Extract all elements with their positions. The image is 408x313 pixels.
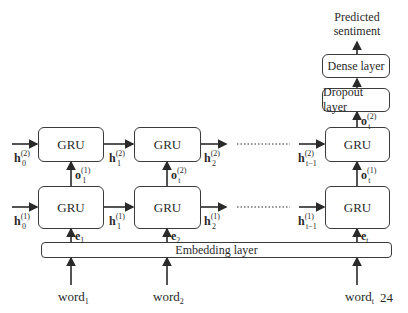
gru-label: GRU (57, 137, 84, 153)
gru-label: GRU (154, 137, 181, 153)
gru-label: GRU (57, 200, 84, 216)
input-word1: word1 (58, 290, 89, 306)
output-o1-1: o(1)1 (75, 167, 86, 185)
gru-layer1-step2: GRU (134, 186, 201, 229)
predicted-sentiment-label: Predicted sentiment (322, 10, 392, 39)
page-number: 24 (380, 290, 393, 306)
gru-layer1-step1: GRU (38, 186, 104, 229)
hidden-state-h1-1: h(1)1 (109, 213, 121, 231)
gru-label: GRU (154, 200, 181, 216)
gru-layer2-step1: GRU (38, 127, 104, 162)
hidden-state-h1-2: h(2)1 (109, 150, 121, 168)
gru-label: GRU (344, 200, 371, 216)
output-ot-1: o(1)t (361, 167, 371, 185)
hidden-state-h2-2: h(2)2 (204, 150, 216, 168)
embedding-e2: e2 (171, 230, 180, 245)
input-wordt: wordt (345, 290, 374, 306)
output-label-line1: Predicted (322, 10, 392, 24)
embedding-et: et (361, 230, 369, 245)
dropout-layer-label: Dropout layer (323, 85, 389, 115)
output-ot-2: o(2)t (361, 113, 371, 131)
hidden-state-ht-1-2: h(2)t−1 (298, 150, 317, 168)
dense-layer: Dense layer (322, 54, 390, 78)
embedding-layer: Embedding layer (41, 242, 392, 258)
dense-layer-label: Dense layer (328, 59, 385, 74)
output-ot-2-mid: o(2)t (171, 167, 181, 185)
gru-label: GRU (344, 137, 371, 153)
output-label-line2: sentiment (322, 24, 392, 38)
input-word2: word2 (153, 290, 184, 306)
dropout-layer: Dropout layer (322, 88, 390, 112)
hidden-state-h0-2: h(2)0 (14, 150, 26, 168)
hidden-state-ht-1-1: h(1)t−1 (298, 213, 317, 231)
gru-layer2-step-t: GRU (325, 127, 390, 162)
embedding-layer-label: Embedding layer (175, 243, 257, 258)
hidden-state-h0-1: h(1)0 (14, 213, 26, 231)
gru-layer2-step2: GRU (134, 127, 201, 162)
hidden-state-h2-1: h(1)2 (204, 213, 216, 231)
embedding-e1: e1 (75, 230, 84, 245)
gru-layer1-step-t: GRU (325, 186, 390, 229)
